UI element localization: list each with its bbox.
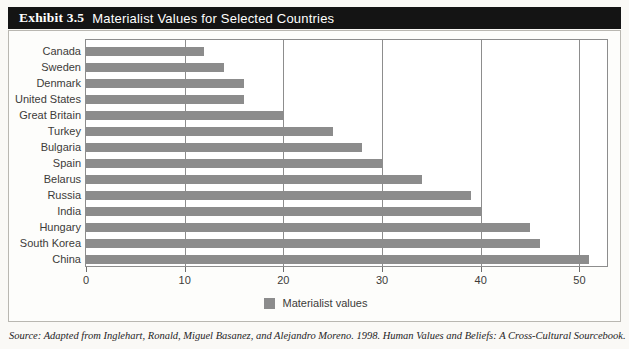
bar	[86, 63, 224, 72]
y-axis-label: Hungary	[9, 220, 81, 236]
x-tick-mark	[86, 267, 87, 272]
y-axis-label: Belarus	[9, 172, 81, 188]
exhibit-title: Materialist Values for Selected Countrie…	[92, 11, 334, 26]
bar	[86, 191, 471, 200]
y-axis-labels: CanadaSwedenDenmarkUnited StatesGreat Br…	[9, 39, 81, 267]
y-axis-label: Bulgaria	[9, 140, 81, 156]
bar-row	[86, 44, 607, 60]
bar-row	[86, 220, 607, 236]
x-axis-ticks: 01020304050	[85, 267, 608, 293]
bar-row	[86, 188, 607, 204]
bar-row	[86, 108, 607, 124]
bar-row	[86, 172, 607, 188]
y-axis-label: Great Britain	[9, 108, 81, 124]
bar	[86, 159, 382, 168]
bar	[86, 95, 244, 104]
x-tick-label: 20	[277, 274, 289, 286]
bar	[86, 47, 204, 56]
legend-label-materialist-values: Materialist values	[283, 297, 368, 309]
x-tick-label: 40	[475, 274, 487, 286]
bar-row	[86, 252, 607, 268]
x-tick-label: 0	[83, 274, 89, 286]
bar-row	[86, 92, 607, 108]
x-tick-label: 50	[573, 274, 585, 286]
y-axis-label: Turkey	[9, 124, 81, 140]
bar	[86, 111, 283, 120]
legend-swatch-materialist-values	[264, 298, 275, 309]
x-tick-mark	[283, 267, 284, 272]
y-axis-label: Canada	[9, 44, 81, 60]
x-tick-mark	[481, 267, 482, 272]
bar	[86, 127, 333, 136]
chart-canvas: CanadaSwedenDenmarkUnited StatesGreat Br…	[9, 31, 622, 323]
bar-row	[86, 124, 607, 140]
y-axis-label: United States	[9, 92, 81, 108]
x-tick-mark	[185, 267, 186, 272]
y-axis-label: India	[9, 204, 81, 220]
y-axis-label: Russia	[9, 188, 81, 204]
bar-row	[86, 236, 607, 252]
exhibit-number: Exhibit 3.5	[19, 10, 84, 26]
chart-frame: CanadaSwedenDenmarkUnited StatesGreat Br…	[8, 30, 621, 322]
bar-row	[86, 156, 607, 172]
source-note: Source: Adapted from Inglehart, Ronald, …	[9, 330, 621, 341]
bar	[86, 79, 244, 88]
bar	[86, 175, 422, 184]
bar-row	[86, 204, 607, 220]
bar	[86, 239, 540, 248]
y-axis-label: Spain	[9, 156, 81, 172]
x-tick-label: 10	[179, 274, 191, 286]
bar-rows	[86, 40, 607, 266]
bar	[86, 143, 362, 152]
bar	[86, 207, 481, 216]
y-axis-label: China	[9, 252, 81, 268]
x-tick-mark	[382, 267, 383, 272]
bar-row	[86, 60, 607, 76]
y-axis-label: Denmark	[9, 76, 81, 92]
x-tick-mark	[579, 267, 580, 272]
bar-row	[86, 76, 607, 92]
chart-legend: Materialist values	[9, 297, 622, 309]
y-axis-label: South Korea	[9, 236, 81, 252]
exhibit-figure: Exhibit 3.5 Materialist Values for Selec…	[0, 0, 629, 349]
y-axis-label: Sweden	[9, 60, 81, 76]
exhibit-title-bar: Exhibit 3.5 Materialist Values for Selec…	[8, 7, 621, 29]
bar-row	[86, 140, 607, 156]
bar	[86, 255, 589, 264]
bar	[86, 223, 530, 232]
plot-area	[85, 39, 608, 267]
x-tick-label: 30	[376, 274, 388, 286]
